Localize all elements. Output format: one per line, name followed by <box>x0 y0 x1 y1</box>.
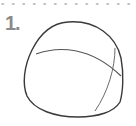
head-sketch-illustration <box>0 0 136 126</box>
cranium-outline <box>24 22 123 117</box>
brow-guide-line <box>36 49 121 76</box>
center-guide-line <box>95 48 115 111</box>
